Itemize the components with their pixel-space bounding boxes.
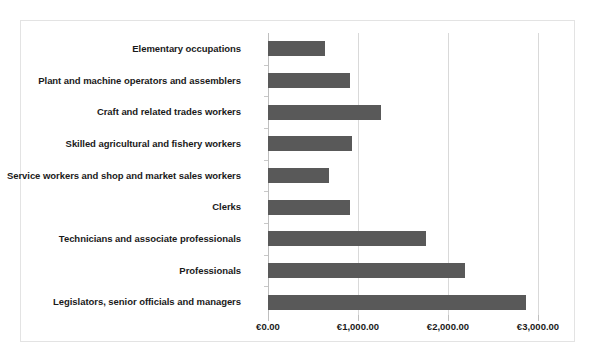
- value-tick-label: €0.00: [256, 321, 280, 332]
- category-tick: [264, 96, 268, 97]
- category-label: Professionals: [0, 265, 241, 277]
- category-tick: [264, 128, 268, 129]
- category-tick: [264, 223, 268, 224]
- category-tick: [264, 65, 268, 66]
- value-tick-label: €2,000.00: [427, 321, 469, 332]
- value-tick-label: €1,000.00: [337, 321, 379, 332]
- category-tick: [264, 255, 268, 256]
- category-label: Craft and related trades workers: [0, 106, 241, 118]
- bar: [268, 41, 325, 56]
- bar-row: [268, 168, 538, 183]
- chart-frame: Elementary occupationsPlant and machine …: [20, 20, 575, 342]
- plot-area: [268, 33, 538, 318]
- bar-row: [268, 105, 538, 120]
- category-tick: [264, 191, 268, 192]
- value-axis-labels: €0.00€1,000.00€2,000.00€3,000.00: [21, 321, 576, 341]
- bar: [268, 200, 350, 215]
- bar: [268, 136, 352, 151]
- bar-row: [268, 73, 538, 88]
- bar: [268, 231, 426, 246]
- category-label: Legislators, senior officials and manage…: [0, 296, 241, 308]
- bar: [268, 263, 465, 278]
- category-label: Plant and machine operators and assemble…: [0, 75, 241, 87]
- category-label: Elementary occupations: [0, 43, 241, 55]
- category-tick: [264, 160, 268, 161]
- category-tick: [264, 286, 268, 287]
- bar-row: [268, 295, 538, 310]
- bar: [268, 295, 526, 310]
- category-label: Technicians and associate professionals: [0, 233, 241, 245]
- bar: [268, 168, 329, 183]
- bar-row: [268, 263, 538, 278]
- bar: [268, 105, 381, 120]
- gridline-3000: [538, 33, 539, 318]
- bar-row: [268, 200, 538, 215]
- bar-row: [268, 231, 538, 246]
- category-label: Service workers and shop and market sale…: [0, 170, 241, 182]
- category-label: Clerks: [0, 201, 241, 213]
- bar-row: [268, 41, 538, 56]
- bar: [268, 73, 350, 88]
- value-tick-label: €3,000.00: [517, 321, 559, 332]
- category-label: Skilled agricultural and fishery workers: [0, 138, 241, 150]
- bar-row: [268, 136, 538, 151]
